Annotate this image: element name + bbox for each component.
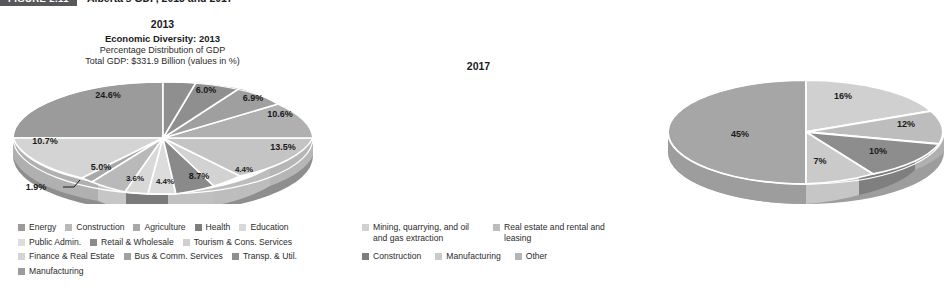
panel-2017-year: 2017 <box>325 60 632 72</box>
legend-swatch-manufacturing-2017 <box>435 253 442 260</box>
slice-energy <box>13 82 163 138</box>
legend-item-bus-comm-services[interactable]: Bus & Comm. Services <box>124 251 223 261</box>
panel-2013-year: 2013 <box>0 18 325 30</box>
legend-swatch-tourism-cons-services <box>183 239 190 246</box>
legend-label-energy: Energy <box>29 222 56 232</box>
legend-swatch-real-estate <box>493 224 500 231</box>
legend-label-tourism-cons-services: Tourism & Cons. Services <box>194 237 292 247</box>
legend-2017-row-1: Mining, quarrying, and oil and gas extra… <box>362 222 624 243</box>
legend-item-tourism-cons-services[interactable]: Tourism & Cons. Services <box>183 237 292 247</box>
value-label-manufacturing-2017: 7% <box>813 156 826 166</box>
legend-item-construction[interactable]: Construction <box>65 222 124 232</box>
legend-label-public-admin: Public Admin. <box>29 237 81 247</box>
legend-item-public-admin[interactable]: Public Admin. <box>18 237 81 247</box>
legend-item-transp-util[interactable]: Transp. & Util. <box>232 251 297 261</box>
value-label-mining: 16% <box>834 91 852 101</box>
legend-2013-row-1: Energy Construction Agriculture Health E… <box>18 222 318 232</box>
legend-label-construction: Construction <box>76 222 124 232</box>
panel-2013-title: Economic Diversity: 2013 <box>0 33 325 45</box>
legend-item-mining-oil-gas[interactable]: Mining, quarrying, and oil and gas extra… <box>362 222 479 243</box>
legend-swatch-energy <box>18 224 25 231</box>
legend-item-retail-wholesale[interactable]: Retail & Wholesale <box>90 237 174 247</box>
value-label-manufacturing: 6.9% <box>243 93 264 103</box>
legend-swatch-construction-2017 <box>362 253 369 260</box>
legend-swatch-other <box>515 253 522 260</box>
legend-label-mining-oil-gas: Mining, quarrying, and oil and gas extra… <box>373 222 479 243</box>
legend-label-agriculture: Agriculture <box>144 222 185 232</box>
legend-swatch-bus-comm-services <box>124 253 131 260</box>
legend-label-bus-comm-services: Bus & Comm. Services <box>135 251 223 261</box>
value-label-energy: 24.6% <box>95 90 121 100</box>
legend-2013-row-3: Finance & Real Estate Bus & Comm. Servic… <box>18 251 318 261</box>
pie-chart-2013-svg: 24.6% 10.7% 5.0% 3.6% 4.4% 8.7% 4.4% 13.… <box>8 72 318 204</box>
panel-2013-distribution-line: Percentage Distribution of GDP <box>0 45 325 57</box>
legend-swatch-agriculture <box>133 224 140 231</box>
value-label-other: 45% <box>731 129 749 139</box>
legend-label-health: Health <box>206 222 231 232</box>
value-label-real-estate: 12% <box>897 119 915 129</box>
legend-item-finance-real-estate[interactable]: Finance & Real Estate <box>18 251 115 261</box>
legend-label-real-estate: Real estate and rental and leasing <box>504 222 610 243</box>
value-label-tourism: 4.4% <box>235 165 253 174</box>
legend-item-real-estate[interactable]: Real estate and rental and leasing <box>493 222 610 243</box>
legend-2013-row-2: Public Admin. Retail & Wholesale Tourism… <box>18 237 318 247</box>
pie-chart-2017-svg: 45% 16% 12% 10% 7% <box>663 72 948 204</box>
legend-swatch-mining-oil-gas <box>362 224 369 231</box>
legend-swatch-manufacturing <box>18 268 25 275</box>
legend-2013-row-4: Manufacturing <box>18 266 318 276</box>
value-label-public-admin: 4.4% <box>156 177 174 186</box>
legend-label-manufacturing: Manufacturing <box>29 266 83 276</box>
legend-item-agriculture[interactable]: Agriculture <box>133 222 185 232</box>
legend-label-education: Education <box>250 222 288 232</box>
value-label-education: 3.6% <box>126 174 144 183</box>
value-label-transp-util: 10.6% <box>267 109 293 119</box>
legend-item-manufacturing-2017[interactable]: Manufacturing <box>435 251 500 262</box>
legend-label-construction-2017: Construction <box>373 251 421 262</box>
legend-label-other: Other <box>526 251 548 262</box>
panel-2013-subtitle-block: Economic Diversity: 2013 Percentage Dist… <box>0 33 325 68</box>
legend-label-transp-util: Transp. & Util. <box>243 251 297 261</box>
value-label-finance: 10.7% <box>32 136 58 146</box>
legend-2017-row-2: Construction Manufacturing Other <box>362 251 624 262</box>
legend-item-education[interactable]: Education <box>239 222 288 232</box>
value-label-retail: 8.7% <box>189 171 210 181</box>
value-label-construction: 5.0% <box>91 162 112 172</box>
legend-swatch-education <box>239 224 246 231</box>
legend-2017: Mining, quarrying, and oil and gas extra… <box>362 222 624 270</box>
pie-chart-2017: 45% 16% 12% 10% 7% <box>663 72 948 204</box>
legend-2013: Energy Construction Agriculture Health E… <box>18 222 318 280</box>
legend-swatch-finance-real-estate <box>18 253 25 260</box>
value-label-bus-comm: 13.5% <box>270 142 296 152</box>
legend-item-health[interactable]: Health <box>195 222 231 232</box>
legend-swatch-construction <box>65 224 72 231</box>
legend-swatch-transp-util <box>232 253 239 260</box>
value-label-health: 6.0% <box>196 85 217 95</box>
legend-label-retail-wholesale: Retail & Wholesale <box>101 237 174 247</box>
legend-item-energy[interactable]: Energy <box>18 222 56 232</box>
legend-swatch-public-admin <box>18 239 25 246</box>
legend-item-other[interactable]: Other <box>515 251 548 262</box>
pie-chart-2013: 24.6% 10.7% 5.0% 3.6% 4.4% 8.7% 4.4% 13.… <box>8 72 318 204</box>
legend-swatch-health <box>195 224 202 231</box>
value-label-construction-2017: 10% <box>869 146 887 156</box>
legend-label-finance-real-estate: Finance & Real Estate <box>29 251 115 261</box>
value-label-agriculture: 1.9% <box>26 182 47 192</box>
panel-2013-total-gdp-line: Total GDP: $331.9 Billion (values in %) <box>0 56 325 68</box>
legend-item-manufacturing[interactable]: Manufacturing <box>18 266 83 276</box>
legend-label-manufacturing-2017: Manufacturing <box>446 251 500 262</box>
legend-item-construction-2017[interactable]: Construction <box>362 251 421 262</box>
legend-swatch-retail-wholesale <box>90 239 97 246</box>
